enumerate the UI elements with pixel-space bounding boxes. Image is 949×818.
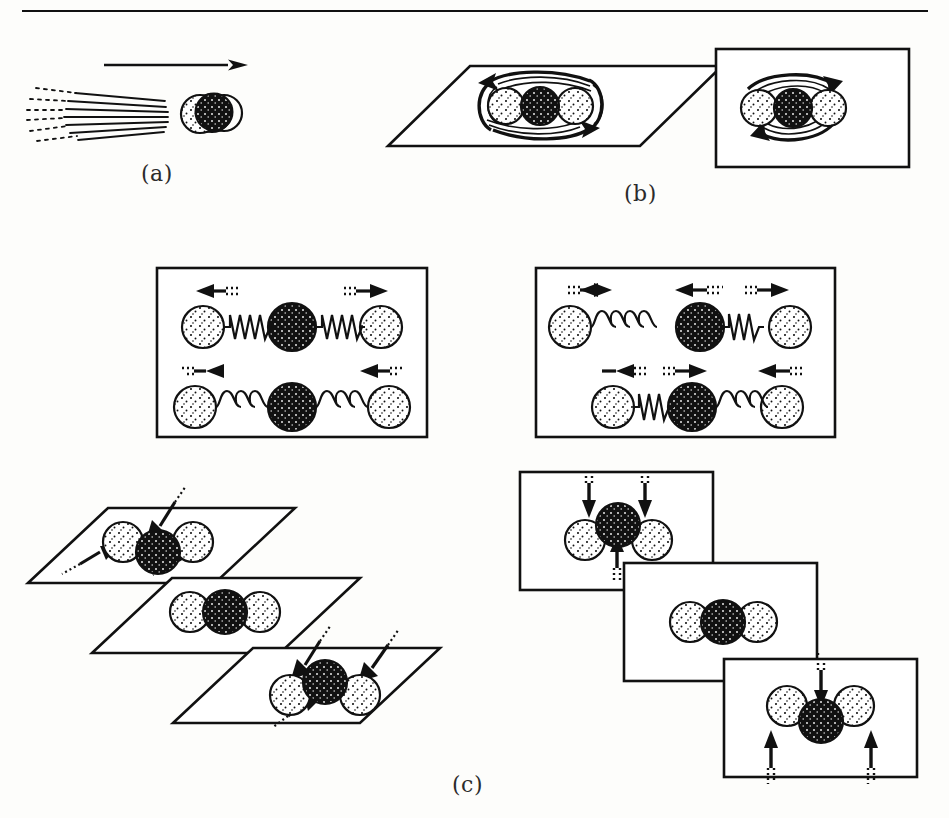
molecule-rotation-left <box>488 87 593 125</box>
molecule-rotation-right <box>741 89 846 127</box>
panel-label-a: (a) <box>141 161 173 186</box>
translation-direction-arrow <box>104 60 248 71</box>
molecular-motion-figure: (a) (b) (c) <box>0 0 949 818</box>
mode-out-of-plane-bend <box>520 468 917 784</box>
panel-label-b: (b) <box>624 181 657 206</box>
atom-center <box>268 303 316 351</box>
mode-symmetric-stretch <box>157 268 427 437</box>
motion-blur-trail <box>27 88 168 141</box>
mode-in-plane-bend <box>28 486 440 728</box>
rotation-plane-left <box>388 66 722 146</box>
atom-left <box>182 306 224 348</box>
rotation-plane-right <box>716 49 909 167</box>
panel-a-translation <box>27 60 248 142</box>
mode-asymmetric-stretch <box>536 268 835 437</box>
translating-molecule <box>181 94 242 134</box>
panel-label-c: (c) <box>452 772 483 797</box>
bend-plane-top <box>28 486 295 583</box>
atom-right <box>360 306 402 348</box>
figure-canvas <box>0 0 949 818</box>
oop-frame-bottom <box>724 652 917 784</box>
